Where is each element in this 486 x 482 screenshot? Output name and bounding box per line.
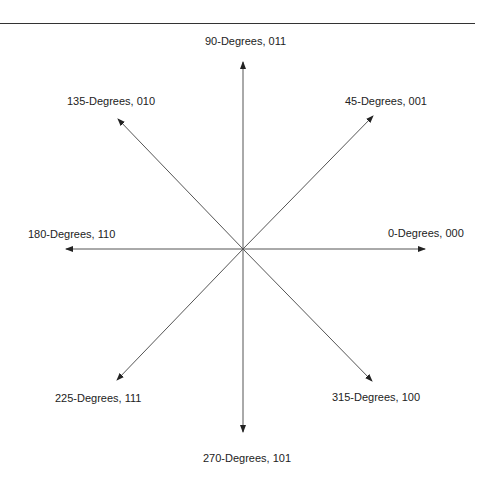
arrow-315 <box>243 249 372 381</box>
label-0: 0-Degrees, 000 <box>388 227 464 239</box>
arrow-135 <box>118 119 243 249</box>
label-270: 270-Degrees, 101 <box>203 452 291 464</box>
label-180: 180-Degrees, 110 <box>28 228 115 240</box>
arrow-45 <box>243 116 373 249</box>
direction-arrows <box>0 0 486 482</box>
arrow-225 <box>117 249 243 380</box>
label-45: 45-Degrees, 001 <box>345 95 427 107</box>
label-90: 90-Degrees, 011 <box>205 35 286 47</box>
label-315: 315-Degrees, 100 <box>332 391 420 403</box>
label-135: 135-Degrees, 010 <box>67 95 155 107</box>
label-225: 225-Degrees, 111 <box>55 392 141 404</box>
